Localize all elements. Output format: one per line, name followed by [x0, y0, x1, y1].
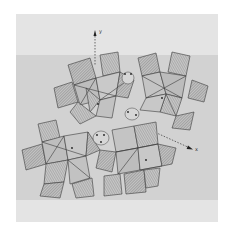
polyhedra-cluster-upper-left [54, 52, 134, 124]
x-axis-label: x [195, 146, 198, 152]
crystal-structure-diagram [0, 0, 229, 235]
polyhedra-cluster-upper-right [138, 52, 208, 130]
y-axis-label: y [99, 28, 102, 34]
y-axis-arrow [94, 30, 97, 66]
polyhedra-cluster-lower-right [96, 122, 176, 196]
polyhedra-cluster-lower-left [22, 120, 100, 198]
